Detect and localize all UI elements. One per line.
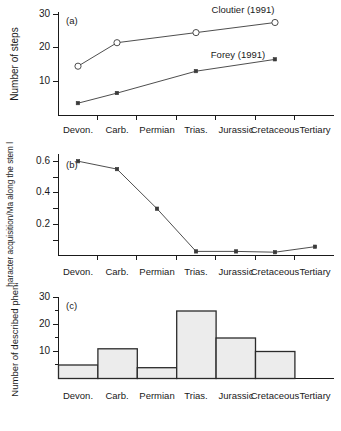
- panel-c-yticklabel-10: 10: [39, 345, 51, 356]
- panel-a-catlabel-tertiary: Tertiary: [299, 124, 330, 135]
- panel-a-forey-point-carb: [115, 91, 118, 94]
- panel-b-svg: 0.2 0.4 0.6 Character acquisition/Ma alo…: [0, 142, 341, 287]
- panel-c-catlabel-trias: Trias.: [184, 390, 207, 401]
- panel-b-series-line: [78, 161, 315, 252]
- panel-b-point-carb: [115, 167, 118, 170]
- panel-a-cloutier-point-trias: [193, 29, 199, 35]
- panel-c-yticklabel-20: 20: [39, 318, 51, 329]
- panel-b-catlabel-tertiary: Tertiary: [299, 266, 330, 277]
- panel-a-cloutier-point-devon: [75, 63, 81, 69]
- panel-c-bar-jurassic: [216, 338, 255, 379]
- panel-c-bar-devon: [59, 365, 98, 379]
- panel-c-letter: (c): [66, 300, 77, 311]
- panel-b-point-cretaceous: [273, 251, 276, 254]
- panel-a-catlabel-devon: Devon.: [63, 124, 93, 135]
- panel-a-svg: 10 20 30 Number of steps (a): [0, 0, 341, 145]
- panel-a-forey-point-cretaceous: [273, 58, 276, 61]
- panel-a-y-axis-title: Number of steps: [9, 27, 20, 100]
- figure-container: 10 20 30 Number of steps (a): [0, 0, 341, 431]
- panel-b-point-tertiary: [313, 245, 316, 248]
- panel-a-catlabel-trias: Trias.: [184, 124, 207, 135]
- panel-c-catlabel-devon: Devon.: [63, 390, 93, 401]
- panel-c-bar-permian: [137, 368, 176, 379]
- panel-c-catlabel-carb: Carb.: [105, 390, 128, 401]
- panel-a-number-of-steps: 10 20 30 Number of steps (a): [0, 0, 341, 145]
- panel-b-point-permian: [155, 207, 158, 210]
- panel-b-yticklabel-0.4: 0.4: [36, 186, 50, 197]
- panel-c-catlabel-tertiary: Tertiary: [299, 390, 330, 401]
- panel-a-cloutier-point-carb: [114, 40, 120, 46]
- panel-b-catlabel-cretaceous: Cretaceous: [251, 266, 300, 277]
- panel-a-yticklabel-30: 30: [39, 8, 51, 19]
- panel-b-character-acquisition: 0.2 0.4 0.6 Character acquisition/Ma alo…: [0, 142, 341, 287]
- panel-c-bar-cretaceous: [256, 352, 295, 379]
- panel-a-catlabel-permian: Permian: [139, 124, 174, 135]
- panel-c-y-axis-title: Number of described phena: [9, 283, 20, 397]
- panel-b-letter: (b): [66, 159, 78, 170]
- panel-a-yticklabel-10: 10: [39, 75, 51, 86]
- panel-b-catlabel-devon: Devon.: [63, 266, 93, 277]
- panel-b-y-axis-title: Character acquisition/Ma along the stem …: [6, 142, 15, 287]
- panel-a-yticklabel-20: 20: [39, 41, 51, 52]
- panel-a-cloutier-point-cretaceous: [272, 19, 278, 25]
- panel-b-catlabel-carb: Carb.: [105, 266, 128, 277]
- panel-c-catlabel-permian: Permian: [139, 390, 174, 401]
- panel-a-catlabel-carb: Carb.: [105, 124, 128, 135]
- panel-a-series-forey-line: [78, 59, 275, 103]
- panel-b-yticklabel-0.6: 0.6: [36, 155, 50, 166]
- panel-a-forey-point-trias: [194, 69, 197, 72]
- panel-c-bar-trias: [177, 311, 216, 379]
- panel-c-bar-carb: [98, 349, 137, 379]
- panel-c-described-phena: 10 20 30 Number of described phena (c) D…: [0, 283, 341, 431]
- panel-a-forey-point-devon: [76, 101, 79, 104]
- panel-a-catlabel-cretaceous: Cretaceous: [251, 124, 300, 135]
- panel-c-yticklabel-30: 30: [39, 291, 51, 302]
- panel-b-point-trias: [194, 250, 197, 253]
- panel-b-catlabel-trias: Trias.: [184, 266, 207, 277]
- panel-b-point-jurassic: [234, 250, 237, 253]
- panel-b-point-devon: [76, 160, 79, 163]
- panel-c-catlabel-cretaceous: Cretaceous: [251, 390, 300, 401]
- panel-b-catlabel-permian: Permian: [139, 266, 174, 277]
- panel-a-label-cloutier: Cloutier (1991): [212, 4, 275, 15]
- panel-c-catlabel-jurassic: Jurassic: [219, 390, 254, 401]
- panel-a-letter: (a): [66, 15, 78, 26]
- panel-b-catlabel-jurassic: Jurassic: [219, 266, 254, 277]
- panel-b-y-axis-title-group: Character acquisition/Ma along the stem …: [6, 142, 15, 287]
- panel-b-yticklabel-0.2: 0.2: [36, 218, 50, 229]
- panel-c-svg: 10 20 30 Number of described phena (c) D…: [0, 283, 341, 431]
- panel-a-label-forey: Forey (1991): [211, 49, 265, 60]
- panel-a-catlabel-jurassic: Jurassic: [219, 124, 254, 135]
